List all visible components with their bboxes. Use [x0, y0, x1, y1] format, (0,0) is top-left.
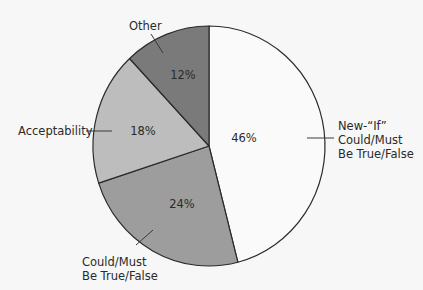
slice-label-could-must-line2: Be True/False — [82, 269, 158, 283]
pie-slices — [93, 26, 325, 266]
slice-value-could-must: 24% — [169, 197, 195, 211]
slice-label-could-must-line1: Could/Must — [82, 255, 147, 269]
slice-label-other: Other — [129, 19, 162, 33]
slice-label-acceptability: Acceptability — [18, 124, 93, 138]
pie-chart: 46% 24% 18% 12% Other Acceptability New-… — [0, 0, 423, 290]
slice-value-acceptability: 18% — [130, 124, 156, 138]
slice-label-new-if-line2: Could/Must — [338, 133, 403, 147]
slice-label-new-if-line3: Be True/False — [338, 147, 414, 161]
slice-label-new-if-line1: New-“If” — [338, 119, 387, 133]
slice-value-new-if: 46% — [231, 131, 257, 145]
slice-value-other: 12% — [170, 68, 196, 82]
